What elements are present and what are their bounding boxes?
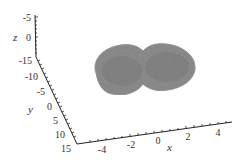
y-tick-label: 5 [53, 115, 58, 126]
y-tick-label: -5 [37, 86, 45, 97]
z-axis: -5 0 z [12, 12, 38, 57]
surface-blob [95, 44, 195, 95]
x-tick-label: 0 [156, 135, 161, 146]
surface-plot-3d: -5 0 z -15 -10 -5 0 5 10 15 y [0, 0, 248, 166]
x-tick-label: 4 [216, 127, 221, 138]
z-axis-label: z [12, 31, 18, 43]
y-tick-label: -15 [19, 55, 32, 66]
x-tick-label: -4 [98, 144, 106, 155]
z-tick-label: 0 [26, 32, 31, 43]
y-axis: -15 -10 -5 0 5 10 15 y [19, 55, 77, 154]
x-axis: -4 -2 0 2 4 x [77, 121, 232, 155]
x-axis-label: x [166, 141, 172, 153]
x-tick-label: 2 [186, 131, 191, 142]
y-axis-label: y [27, 103, 33, 115]
z-tick-label: -5 [23, 12, 31, 23]
x-tick-label: -2 [127, 139, 135, 150]
y-tick-label: 15 [61, 143, 71, 154]
y-tick-label: 10 [55, 129, 65, 140]
y-tick-label: 0 [47, 101, 52, 112]
y-tick-label: -10 [25, 71, 38, 82]
